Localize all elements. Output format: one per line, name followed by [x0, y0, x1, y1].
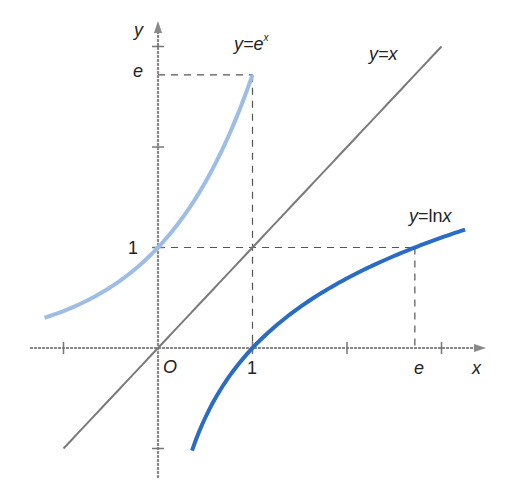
y-axis-label: y — [132, 20, 144, 40]
identity-curve-label: y=x — [367, 44, 399, 64]
exp-curve-label: y=ex — [232, 32, 270, 54]
x-tick-label-e: e — [414, 358, 424, 378]
ln-curve-label: y=lnx — [407, 206, 453, 226]
curves — [45, 47, 466, 451]
x-tick-label-1: 1 — [247, 358, 257, 378]
y-tick-label-1: 1 — [128, 238, 138, 258]
ln-curve — [192, 230, 465, 451]
axes — [30, 21, 486, 478]
y-axis-arrow-icon — [154, 21, 162, 33]
function-graph-figure: y x O 1 e 1 e y=ex y=x y=lnx — [0, 0, 509, 502]
x-axis-label: x — [471, 358, 482, 378]
y-tick-label-e: e — [133, 61, 143, 81]
plot-svg: y x O 1 e 1 e y=ex y=x y=lnx — [0, 0, 509, 502]
x-axis-arrow-icon — [474, 344, 486, 352]
origin-label: O — [163, 357, 177, 377]
